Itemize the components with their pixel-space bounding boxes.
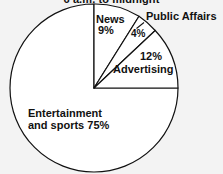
slice-value-news: 9% bbox=[98, 25, 114, 37]
slice-label-advertising: Advertising bbox=[113, 64, 174, 76]
pie-chart-figure: 6 a.m. to midnight News 9% Public Affair… bbox=[0, 0, 223, 174]
slice-value-advertising: 12% bbox=[140, 51, 162, 63]
slice-value-public-affairs: 4% bbox=[131, 29, 145, 40]
slice-label-public-affairs: Public Affairs bbox=[146, 11, 217, 23]
slice-value-entertainment: and sports 75% bbox=[28, 120, 109, 132]
